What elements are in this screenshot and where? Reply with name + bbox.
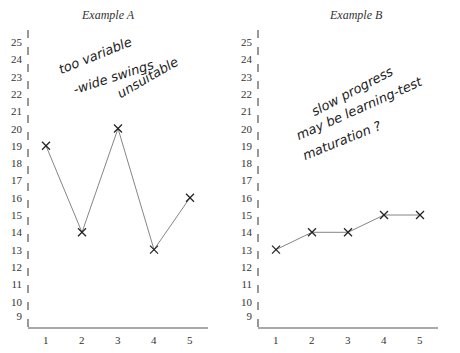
x-tick-label: 4 <box>381 334 387 346</box>
y-tick-label: 12 <box>0 261 22 273</box>
y-tick-label: 10 <box>230 296 252 308</box>
data-point-x-marker <box>186 194 194 202</box>
x-tick-label: 3 <box>115 334 121 346</box>
chart-example-a: Example A 910111213141516171819202122232… <box>0 0 230 353</box>
y-tick-label: 9 <box>230 310 252 322</box>
y-tick-label: 25 <box>230 36 252 48</box>
x-tick-label: 2 <box>309 334 315 346</box>
y-tick-label: 15 <box>0 209 22 221</box>
x-tick-label: 1 <box>273 334 279 346</box>
x-tick-label: 1 <box>43 334 49 346</box>
data-point-x-marker <box>78 228 86 236</box>
y-tick-label: 17 <box>0 174 22 186</box>
x-tick-label: 4 <box>151 334 157 346</box>
y-tick-label: 20 <box>0 123 22 135</box>
y-tick-label: 15 <box>230 209 252 221</box>
y-tick-label: 19 <box>230 140 252 152</box>
x-tick-label: 5 <box>187 334 193 346</box>
y-tick-label: 24 <box>230 53 252 65</box>
y-tick-label: 18 <box>0 157 22 169</box>
y-tick-label: 14 <box>230 226 252 238</box>
y-tick-label: 17 <box>230 174 252 186</box>
y-tick-label: 18 <box>230 157 252 169</box>
y-tick-label: 22 <box>0 88 22 100</box>
y-tick-label: 20 <box>230 123 252 135</box>
y-tick-label: 11 <box>0 278 22 290</box>
y-tick-label: 11 <box>230 278 252 290</box>
y-tick-label: 25 <box>0 36 22 48</box>
data-point-x-marker <box>272 246 280 254</box>
y-tick-label: 23 <box>0 71 22 83</box>
y-tick-label: 14 <box>0 226 22 238</box>
y-tick-label: 21 <box>230 105 252 117</box>
x-tick-label: 5 <box>417 334 423 346</box>
y-tick-label: 16 <box>230 192 252 204</box>
data-point-x-marker <box>42 142 50 150</box>
y-tick-label: 12 <box>230 261 252 273</box>
y-tick-label: 19 <box>0 140 22 152</box>
x-tick-label: 2 <box>79 334 85 346</box>
y-tick-label: 10 <box>0 296 22 308</box>
data-point-x-marker <box>150 246 158 254</box>
y-tick-label: 21 <box>0 105 22 117</box>
plot-area <box>230 0 460 353</box>
x-tick-label: 3 <box>345 334 351 346</box>
y-tick-label: 13 <box>0 244 22 256</box>
y-tick-label: 16 <box>0 192 22 204</box>
data-point-x-marker <box>114 125 122 133</box>
data-line <box>46 129 190 250</box>
y-tick-label: 22 <box>230 88 252 100</box>
y-tick-label: 9 <box>0 310 22 322</box>
y-tick-label: 24 <box>0 53 22 65</box>
y-tick-label: 13 <box>230 244 252 256</box>
y-tick-label: 23 <box>230 71 252 83</box>
chart-example-b: Example B 910111213141516171819202122232… <box>230 0 460 353</box>
